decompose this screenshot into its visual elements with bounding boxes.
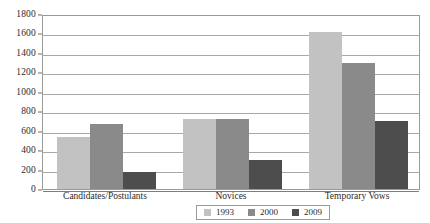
bars-layer bbox=[43, 16, 419, 189]
bar-group bbox=[43, 16, 169, 189]
bar-1993-candidates-postulants bbox=[57, 137, 90, 189]
legend-label: 2000 bbox=[260, 208, 278, 217]
legend-item-2009[interactable]: 2009 bbox=[292, 208, 322, 217]
x-category-label: Candidates/Postulants bbox=[63, 192, 147, 202]
bar-2000-novices bbox=[216, 119, 249, 189]
y-tick-label: 600 bbox=[21, 127, 36, 137]
bar-chart: 180016001400120010008006004002000 Candid… bbox=[0, 0, 430, 223]
bar-1993-novices bbox=[183, 119, 216, 189]
y-tick-label: 1400 bbox=[16, 49, 36, 59]
bar-2000-candidates-postulants bbox=[90, 124, 123, 189]
y-tick-label: 1600 bbox=[16, 30, 36, 40]
x-category-label: Temporary Vows bbox=[325, 192, 390, 202]
legend-swatch-icon bbox=[204, 209, 211, 216]
y-tick-label: 1000 bbox=[16, 88, 36, 98]
y-tick-label: 0 bbox=[31, 185, 36, 195]
bar-1993-temporary-vows bbox=[309, 32, 342, 189]
legend-swatch-icon bbox=[292, 209, 299, 216]
bar-2000-temporary-vows bbox=[342, 63, 375, 189]
y-tick-label: 400 bbox=[21, 146, 36, 156]
bar-2009-novices bbox=[249, 160, 282, 189]
x-category-label: Novices bbox=[215, 192, 246, 202]
legend-item-1993[interactable]: 1993 bbox=[204, 208, 234, 217]
y-tick-label: 1200 bbox=[16, 69, 36, 79]
bar-group bbox=[295, 16, 421, 189]
bar-group bbox=[169, 16, 295, 189]
legend-item-2000[interactable]: 2000 bbox=[248, 208, 278, 217]
legend-swatch-icon bbox=[248, 209, 255, 216]
y-tick-label: 200 bbox=[21, 166, 36, 176]
chart-legend: 199320002009 bbox=[196, 205, 330, 220]
legend-label: 2009 bbox=[304, 208, 322, 217]
y-axis: 180016001400120010008006004002000 bbox=[0, 15, 36, 190]
bar-2009-candidates-postulants bbox=[123, 172, 156, 189]
bar-2009-temporary-vows bbox=[375, 121, 408, 189]
y-tick-label: 1800 bbox=[16, 10, 36, 20]
plot-area bbox=[42, 15, 420, 190]
legend-label: 1993 bbox=[216, 208, 234, 217]
y-tick-label: 800 bbox=[21, 107, 36, 117]
